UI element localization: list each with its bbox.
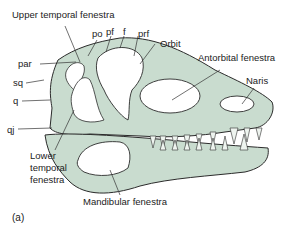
label-mandibular-fenestra: Mandibular fenestra	[83, 196, 167, 207]
label-f: f	[123, 26, 126, 37]
label-prf: prf	[138, 28, 149, 39]
panel-label: (a)	[12, 212, 24, 223]
label-q: q	[13, 95, 18, 106]
label-qj: qj	[7, 124, 14, 135]
label-po: po	[92, 28, 103, 39]
label-antorbital-fenestra: Antorbital fenestra	[198, 52, 275, 63]
label-orbit: Orbit	[160, 38, 181, 49]
label-sq: sq	[13, 77, 23, 88]
label-pf: pf	[106, 26, 114, 37]
naris-shape	[220, 96, 254, 112]
label-par: par	[18, 58, 32, 69]
label-naris: Naris	[246, 75, 268, 86]
antorbital-fenestra-shape	[140, 79, 200, 113]
label-lower-temporal-fenestra-line2: temporal	[30, 162, 67, 173]
label-lower-temporal-fenestra-line3: fenestra	[30, 174, 64, 185]
label-lower-temporal-fenestra-line1: Lower	[30, 150, 56, 161]
label-upper-temporal-fenestra: Upper temporal fenestra	[12, 9, 114, 20]
